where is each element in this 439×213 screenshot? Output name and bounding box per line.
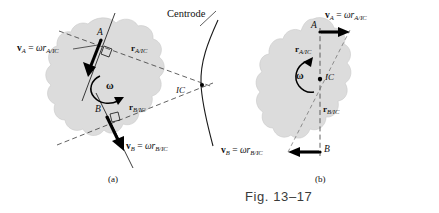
figure-container: vA = ωrA/IC vB = ωrB/IC A B rA/IC rB/IC … <box>0 0 439 213</box>
va-equals-sign: = <box>28 43 33 53</box>
centrode-label: Centrode <box>167 9 206 20</box>
figure-graphics <box>0 0 439 213</box>
vb-r-subscript: B/IC <box>155 145 167 152</box>
radius-b-label-a: rB/IC <box>129 103 145 113</box>
va-omega-symbol-b: ω <box>344 10 351 20</box>
velocity-b-equation-label-a: vB = ωrB/IC <box>126 142 168 152</box>
point-marker-a-b <box>318 30 321 33</box>
ic-point-marker-b <box>318 77 322 81</box>
velocity-a-equation-label-b: vA = ωrA/IC <box>325 11 367 21</box>
va-r-subscript-b: A/IC <box>354 14 366 21</box>
point-label-b-b: B <box>324 145 330 155</box>
vb-r-subscript-b: B/IC <box>250 149 262 156</box>
panel-b-graphics <box>256 18 351 158</box>
radius-a-label-a: rA/IC <box>131 44 147 54</box>
vb-omega-symbol: ω <box>145 141 152 151</box>
vb-omega-symbol-b: ω <box>240 145 247 155</box>
panel-label-b: (b) <box>315 175 326 184</box>
va-vector-subscript: A <box>22 47 26 54</box>
ra-subscript-b: A/IC <box>299 48 311 55</box>
panel-label-a: (a) <box>108 175 118 184</box>
vb-equals-sign-b: = <box>232 145 237 155</box>
point-marker-a <box>99 38 102 41</box>
ic-label-a: IC <box>176 86 185 95</box>
point-label-a: A <box>97 28 103 38</box>
point-marker-b <box>105 115 108 118</box>
rb-subscript: B/IC <box>133 106 145 113</box>
ic-label-b: IC <box>325 73 334 82</box>
figure-caption: Fig. 13–17 <box>245 190 312 203</box>
velocity-b-equation-label-b: vB = ωrB/IC <box>221 146 263 156</box>
omega-label-a: ω <box>106 81 114 92</box>
va-vector-subscript-b: A <box>330 14 334 21</box>
omega-label-b: ω <box>296 71 304 82</box>
point-marker-b-b <box>318 150 321 153</box>
velocity-vector-b-b <box>288 147 319 157</box>
point-label-a-b: A <box>311 21 317 31</box>
centrode-curve <box>201 20 218 146</box>
va-omega-symbol: ω <box>36 43 43 53</box>
vb-equals-sign: = <box>137 141 142 151</box>
vb-vector-subscript-b: B <box>226 149 230 156</box>
velocity-a-equation-label-a: vA = ωrA/IC <box>17 44 59 54</box>
radius-b-label-b: rB/IC <box>323 105 339 115</box>
vb-vector-subscript: B <box>131 145 135 152</box>
rigid-body-shape-a <box>46 18 165 136</box>
point-label-b: B <box>95 105 101 115</box>
ic-point-marker-a <box>200 83 204 87</box>
rb-subscript-b: B/IC <box>327 108 339 115</box>
va-r-subscript: A/IC <box>46 47 58 54</box>
radius-a-label-b: rA/IC <box>295 45 311 55</box>
ra-subscript: A/IC <box>135 47 147 54</box>
va-equals-sign-b: = <box>336 10 341 20</box>
